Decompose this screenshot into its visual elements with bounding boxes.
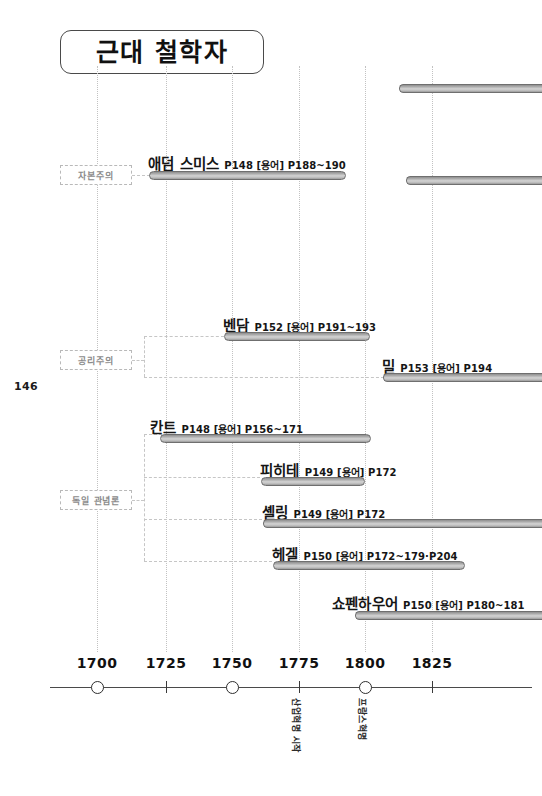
bar-fichte [261, 477, 365, 486]
bar-continuation-top [399, 84, 542, 93]
connector-german-idealism-spine [144, 434, 145, 561]
person-name-adam-smith: 애덤 스미스 [148, 156, 219, 172]
person-ref-adam-smith: P148 [용어] P188~190 [224, 160, 346, 171]
axis-year-1725: 1725 [146, 655, 187, 671]
category-label-utilitarianism: 공리주의 [78, 354, 113, 367]
axis-year-1825: 1825 [412, 655, 453, 671]
bar-schopenhauer [355, 611, 542, 620]
bar-mill [383, 373, 542, 382]
axis-marker-1800 [359, 681, 372, 694]
event-label-industrial-revolution: 산업혁명 시작 [290, 698, 303, 753]
category-capitalism: 자본주의 [60, 165, 132, 185]
connector-capitalism [132, 175, 150, 176]
person-ref-schopenhauer: P150 [용어] P180~181 [403, 600, 525, 611]
connector-mill [144, 377, 384, 378]
gridline-1750 [232, 66, 233, 652]
bar-hegel [273, 561, 465, 570]
category-german-idealism: 독일 관념론 [60, 490, 132, 510]
axis-marker-1725 [166, 681, 167, 693]
axis-marker-1825 [432, 681, 433, 693]
person-label-adam-smith: 애덤 스미스 P148 [용어] P188~190 [148, 156, 346, 172]
gridline-1725 [166, 66, 167, 652]
person-name-schopenhauer: 쇼펜하우어 [332, 596, 398, 612]
axis-year-1750: 1750 [212, 655, 253, 671]
person-label-schopenhauer: 쇼펜하우어 P150 [용어] P180~181 [332, 596, 525, 612]
axis-marker-1775 [299, 681, 300, 693]
page-number: 146 [14, 380, 38, 393]
page-title-box: 근대 철학자 [60, 30, 264, 74]
connector-utilitarianism-spine [144, 336, 145, 377]
bar-schelling [263, 519, 542, 528]
connector-hegel [144, 561, 272, 562]
connector-schelling [144, 519, 262, 520]
category-utilitarianism: 공리주의 [60, 350, 132, 370]
axis-year-1700: 1700 [77, 655, 118, 671]
category-label-german-idealism: 독일 관념론 [72, 494, 120, 507]
connector-fichte [144, 477, 260, 478]
axis-marker-1700 [91, 681, 104, 694]
bar-kant [160, 434, 371, 443]
page-title: 근대 철학자 [96, 40, 229, 65]
category-label-capitalism: 자본주의 [78, 169, 113, 182]
axis-year-1775: 1775 [279, 655, 320, 671]
bar-continuation-second [406, 176, 542, 185]
bar-bentham [224, 332, 370, 341]
timeline-page: 146 근대 철학자 자본주의 애덤 스미스 P148 [용어] P188~19… [0, 0, 542, 796]
connector-bentham [144, 336, 224, 337]
axis-marker-1750 [226, 681, 239, 694]
connector-german-idealism-stem [132, 500, 144, 501]
event-label-french-revolution: 프랑스혁명 [356, 698, 369, 741]
connector-utilitarianism-stem [132, 360, 144, 361]
axis-year-1800: 1800 [345, 655, 386, 671]
timeline-axis [50, 687, 532, 688]
bar-adam-smith [149, 171, 346, 180]
